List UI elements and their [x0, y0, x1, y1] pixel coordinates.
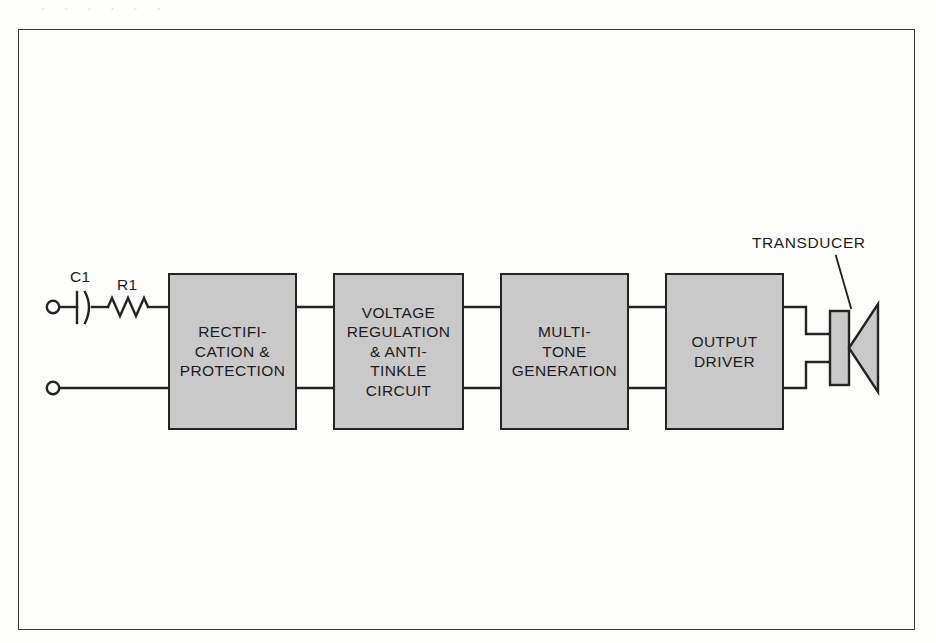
block-output-driver: OUTPUT DRIVER	[665, 273, 784, 430]
resistor-zigzag-icon	[108, 298, 148, 316]
label-transducer: TRANSDUCER	[752, 234, 866, 252]
input-terminal-top-icon	[47, 301, 59, 313]
block-rectification-label: RECTIFI- CATION & PROTECTION	[180, 322, 286, 381]
block-voltage-regulation-label: VOLTAGE REGULATION & ANTI- TINKLE CIRCUI…	[347, 303, 451, 401]
block-voltage-regulation: VOLTAGE REGULATION & ANTI- TINKLE CIRCUI…	[333, 273, 464, 430]
label-c1: C1	[70, 268, 91, 286]
capacitor-plate-curved	[85, 292, 89, 323]
wiring-layer	[0, 0, 936, 643]
block-multi-tone-generation: MULTI- TONE GENERATION	[500, 273, 629, 430]
wire-b4-transducer-bottom	[784, 362, 830, 388]
block-multi-tone-generation-label: MULTI- TONE GENERATION	[512, 322, 617, 381]
speaker-cone-icon	[849, 304, 878, 392]
block-rectification: RECTIFI- CATION & PROTECTION	[168, 273, 297, 430]
transducer-leader-line	[836, 256, 851, 308]
diagram-page: · · · · · ·	[0, 0, 936, 643]
block-output-driver-label: OUTPUT DRIVER	[691, 332, 757, 371]
input-terminal-bottom-icon	[47, 382, 59, 394]
speaker-body-icon	[830, 311, 849, 385]
label-r1: R1	[117, 276, 138, 294]
wire-b4-transducer-top	[784, 307, 830, 334]
